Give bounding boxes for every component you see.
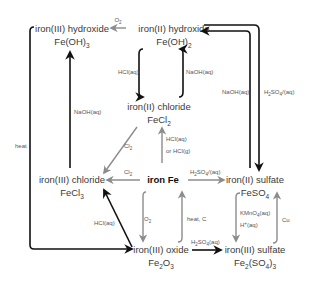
node-name: iron Fe <box>147 174 179 185</box>
reagent-h2so4-oxide: H2SO4(aq) <box>191 239 220 247</box>
node-formula: Fe2O3 <box>148 257 174 270</box>
node-iron-ii-sulfate: iron(II) sulfate FeSO4 <box>226 174 284 200</box>
reagent-o2-down: O2 <box>144 216 152 224</box>
arrow-kmno4-feso4-to-fe2so43 <box>236 193 240 241</box>
node-formula: FeCl3 <box>60 187 84 200</box>
reagent-hcl-fe-line1: HCl(aq) <box>166 136 187 142</box>
reagent-h2so4-fe: H2SO4/(aq) <box>190 169 220 177</box>
reagent-hcl-fe-line2: or HCl(g) <box>166 148 190 154</box>
node-formula: Fe(OH)3 <box>54 36 90 49</box>
reagent-o2: O2 <box>114 17 122 25</box>
node-iron-iii-hydroxide: iron(III) hydroxide Fe(OH)3 <box>35 23 109 49</box>
iron-reactions-diagram: iron(III) hydroxide Fe(OH)3 iron(II) hyd… <box>0 0 311 282</box>
node-formula: Fe2(SO4)3 <box>234 257 276 270</box>
reagent-heat: heat <box>15 143 27 149</box>
reagent-naoh-left: NaOH(aq) <box>74 109 101 115</box>
node-formula: FeSO4 <box>241 187 270 200</box>
reagent-cl2-horiz: Cl2 <box>124 169 133 177</box>
reagent-naoh-right: NaOH(aq) <box>222 89 249 95</box>
reagent-kmno4-line2: H+(aq) <box>240 221 258 228</box>
reagent-hcl-aq: HCl(aq) <box>118 69 139 75</box>
reagent-naoh-aq: NaOH(aq) <box>186 69 213 75</box>
node-iron-iii-chloride: iron(III) chloride FeCl3 <box>39 174 105 200</box>
node-iron-ii-chloride: iron(II) chloride FeCl2 <box>127 101 190 127</box>
reagent-hcl-oxide: HCl(aq) <box>94 220 115 226</box>
reagent-h2so4-right: H2SO4/(aq) <box>264 89 294 97</box>
arrow-naoh-feso4-to-feoh2 <box>202 31 250 168</box>
node-name: iron(III) chloride <box>39 174 105 185</box>
node-iron: iron Fe <box>147 174 179 185</box>
arrow-cu-fe2so43-to-feso4 <box>273 193 277 243</box>
arrow-heatc-fe2o3-to-fe <box>178 192 182 242</box>
node-formula: FeCl2 <box>147 114 171 127</box>
node-name: iron(II) hydroxide <box>138 23 209 34</box>
node-name: iron(III) oxide <box>133 244 188 255</box>
reagent-kmno4-line1: KMnO4(aq) <box>240 210 270 218</box>
node-formula: Fe(OH)2 <box>156 36 192 49</box>
reagent-heat-c: heat, C <box>187 216 207 222</box>
arrow-naoh-to-feoh2 <box>179 49 183 97</box>
reagent-cl2-diag: Cl2 <box>124 143 133 151</box>
node-name: iron(II) chloride <box>127 101 190 112</box>
node-iron-ii-hydroxide: iron(II) hydroxide Fe(OH)2 <box>138 23 209 49</box>
node-iron-iii-oxide: iron(III) oxide Fe2O3 <box>133 244 188 270</box>
arrow-hcl-fe2o3-to-fecl3 <box>104 190 132 247</box>
reagent-cu: Cu <box>282 217 290 223</box>
node-iron-iii-sulfate: iron(III) sulfate Fe2(SO4)3 <box>225 244 286 270</box>
node-name: iron(III) hydroxide <box>35 23 109 34</box>
node-name: iron(III) sulfate <box>225 244 286 255</box>
node-name: iron(II) sulfate <box>226 174 284 185</box>
arrow-hcl-to-fecl2 <box>139 49 143 97</box>
